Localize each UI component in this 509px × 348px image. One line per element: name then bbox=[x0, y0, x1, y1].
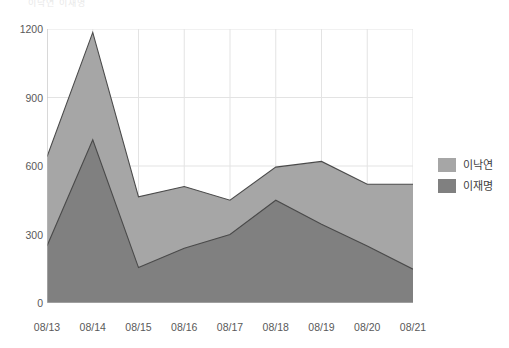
y-axis: 12009006003000 bbox=[0, 0, 43, 348]
legend-item-label: 이재명 bbox=[463, 181, 493, 192]
area-chart-svg bbox=[47, 29, 413, 303]
chart-legend: 이낙연이재명 bbox=[438, 156, 508, 198]
y-axis-tick-label: 0 bbox=[3, 298, 43, 309]
y-axis-tick-label: 1200 bbox=[3, 24, 43, 35]
legend-swatch-icon bbox=[438, 158, 456, 172]
legend-item-label: 이낙연 bbox=[463, 160, 493, 171]
legend-swatch-icon bbox=[438, 179, 456, 193]
chart-container: 이낙연 이재명 12009006003000 08/1308/1408/1508… bbox=[0, 0, 509, 348]
x-axis-tick-label: 08/21 bbox=[383, 322, 443, 333]
y-axis-tick-label: 600 bbox=[3, 161, 43, 172]
legend-item[interactable]: 이낙연 bbox=[438, 156, 508, 174]
y-axis-tick-label: 900 bbox=[3, 92, 43, 103]
legend-item[interactable]: 이재명 bbox=[438, 177, 508, 195]
x-axis: 08/1308/1408/1508/1608/1708/1808/1908/20… bbox=[47, 322, 413, 338]
plot-area bbox=[47, 29, 413, 303]
y-axis-tick-label: 300 bbox=[3, 229, 43, 240]
